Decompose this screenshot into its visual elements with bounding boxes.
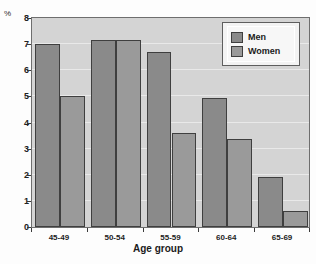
x-axis-tick-mark (31, 228, 32, 232)
bar-women-45-49 (60, 96, 85, 227)
y-axis-tick-label: 7 (3, 40, 29, 49)
y-axis-tick-label: 1 (3, 197, 29, 206)
x-axis-tick-mark (309, 228, 310, 232)
bar-chart-figure: % 012345678 Men Women 45-4950-5455-5960-… (0, 0, 316, 264)
bar-women-55-59 (172, 133, 197, 227)
bar-men-50-54 (91, 40, 116, 227)
x-axis-tick-mark (254, 228, 255, 232)
legend-label-men: Men (248, 32, 266, 42)
bar-women-60-64 (227, 139, 252, 227)
plot-area: Men Women (31, 17, 310, 228)
x-axis-tick-label: 60-64 (198, 233, 254, 242)
bar-men-45-49 (35, 44, 60, 227)
x-axis-tick-label: 65-69 (254, 233, 310, 242)
y-axis-tick-label: 4 (3, 119, 29, 128)
bar-women-50-54 (116, 40, 141, 227)
legend-swatch-men-icon (231, 32, 243, 43)
y-axis: 012345678 (0, 0, 29, 264)
legend-inner: Men Women (227, 26, 295, 62)
bar-men-65-69 (258, 177, 283, 227)
x-axis: 45-4950-5455-5960-6465-69 (31, 228, 310, 244)
x-axis-tick-label: 55-59 (143, 233, 199, 242)
x-axis-tick-label: 50-54 (87, 233, 143, 242)
legend-item-women: Women (231, 44, 291, 58)
x-axis-title: Age group (0, 243, 316, 254)
legend-item-men: Men (231, 30, 291, 44)
y-axis-tick-label: 0 (3, 223, 29, 232)
bar-women-65-69 (283, 211, 308, 227)
y-axis-tick-label: 2 (3, 171, 29, 180)
legend-label-women: Women (248, 46, 280, 56)
x-axis-tick-mark (143, 228, 144, 232)
x-axis-tick-mark (198, 228, 199, 232)
y-axis-tick-label: 5 (3, 92, 29, 101)
bar-men-55-59 (147, 52, 172, 227)
bar-men-60-64 (202, 98, 227, 227)
legend-swatch-women-icon (231, 46, 243, 57)
y-axis-tick-label: 3 (3, 145, 29, 154)
y-axis-tick-label: 8 (3, 14, 29, 23)
x-axis-tick-mark (87, 228, 88, 232)
x-axis-tick-label: 45-49 (31, 233, 87, 242)
y-axis-tick-label: 6 (3, 66, 29, 75)
legend: Men Women (222, 22, 300, 66)
